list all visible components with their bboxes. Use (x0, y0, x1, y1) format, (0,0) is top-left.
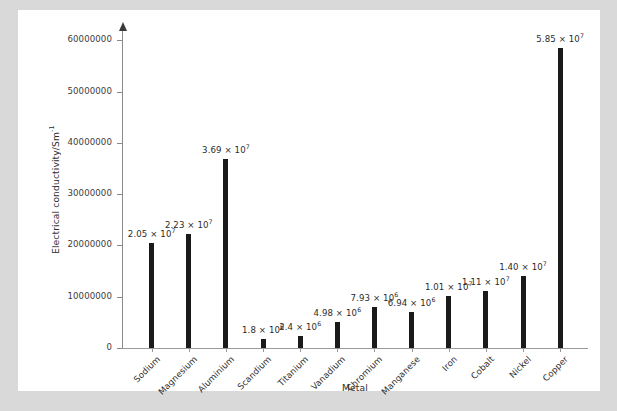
bar (558, 48, 563, 348)
bar-value-label: 2.23 × 107 (165, 220, 213, 230)
x-axis-tick (226, 348, 227, 352)
bar (149, 243, 154, 348)
y-axis-tick-label: 50000000 (67, 86, 112, 96)
x-axis-tick-label: Copper (541, 354, 570, 383)
x-axis-tick (189, 348, 190, 352)
y-axis-title: Electrical conductivity/Sm-1 (50, 70, 64, 310)
bar-value-label: 1.11 × 107 (462, 277, 510, 287)
x-axis-line (122, 348, 588, 349)
x-axis-tick (300, 348, 301, 352)
x-axis-tick (449, 348, 450, 352)
y-axis-title-text: Electrical conductivity/Sm (50, 132, 61, 254)
x-axis-tick-label: Iron (440, 354, 459, 373)
x-axis-tick-label: Sodium (131, 354, 161, 384)
x-axis-tick (152, 348, 153, 352)
x-axis-tick (523, 348, 524, 352)
y-axis-tick (117, 194, 122, 195)
y-axis-tick-label: 10000000 (67, 291, 112, 301)
screenshot-root: Electrical conductivity/Sm-1 01000000020… (0, 0, 617, 411)
y-axis-tick-label: 40000000 (67, 137, 112, 147)
y-axis-tick (117, 297, 122, 298)
plot-area: 0100000002000000030000000400000005000000… (122, 30, 588, 348)
bar (186, 234, 191, 348)
bar (446, 296, 451, 348)
x-axis-tick-label: Nickel (507, 354, 533, 380)
y-axis-title-exponent: -1 (48, 126, 56, 133)
x-axis-tick (263, 348, 264, 352)
y-axis-arrow-icon (119, 22, 127, 31)
x-axis-tick (374, 348, 375, 352)
bar (261, 339, 266, 348)
bar-value-label: 1.8 × 106 (242, 325, 284, 335)
y-axis-tick-label: 60000000 (67, 34, 112, 44)
bar (483, 291, 488, 348)
bar (521, 276, 526, 348)
y-axis-tick (117, 348, 122, 349)
x-axis-tick (412, 348, 413, 352)
y-axis-tick (117, 40, 122, 41)
y-axis-tick-label: 20000000 (67, 239, 112, 249)
bar-value-label: 6.94 × 106 (388, 298, 436, 308)
chart-card: Electrical conductivity/Sm-1 01000000020… (18, 10, 600, 391)
bar-value-label: 3.69 × 107 (202, 145, 250, 155)
bar (223, 159, 228, 348)
x-axis-tick-label: Cobalt (469, 354, 496, 381)
x-axis-title: Metal (122, 382, 588, 393)
x-axis-tick (486, 348, 487, 352)
bar-value-label: 2.05 × 107 (128, 229, 176, 239)
x-axis-tick (337, 348, 338, 352)
y-axis-tick-label: 0 (106, 342, 112, 352)
bar-value-label: 4.98 × 106 (313, 308, 361, 318)
y-axis-tick (117, 143, 122, 144)
y-axis-tick (117, 92, 122, 93)
y-axis-tick-label: 30000000 (67, 188, 112, 198)
y-axis-line (122, 30, 123, 348)
bar (372, 307, 377, 348)
bar-value-label: 2.4 × 106 (279, 322, 321, 332)
bar-value-label: 5.85 × 107 (536, 34, 584, 44)
y-axis-tick (117, 245, 122, 246)
bar (409, 312, 414, 348)
bar (298, 336, 303, 348)
x-axis-tick (560, 348, 561, 352)
bar-value-label: 1.40 × 107 (499, 262, 547, 272)
bar (335, 322, 340, 348)
